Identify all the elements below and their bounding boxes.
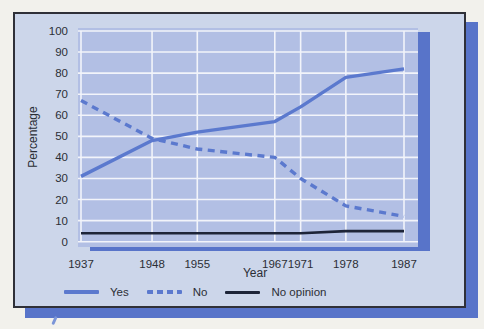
x-tick-label: 1937: [59, 257, 103, 271]
legend-item: Yes: [64, 286, 129, 298]
legend-dashed-line-swatch: [147, 290, 182, 294]
y-tick-label: 80: [24, 66, 68, 80]
legend-solid-line-swatch: [225, 291, 260, 294]
chart-card: Percentage Year 0102030405060708090100 1…: [13, 12, 466, 308]
y-tick-label: 90: [24, 45, 68, 59]
x-tick-label: 1978: [324, 257, 368, 271]
y-tick-label: 50: [24, 129, 68, 143]
legend-label: No: [193, 286, 208, 298]
y-tick-label: 70: [24, 87, 68, 101]
line-chart: [78, 28, 418, 247]
y-tick-label: 100: [24, 24, 68, 38]
x-tick-label: 1955: [175, 257, 219, 271]
y-tick-label: 10: [24, 214, 68, 228]
x-tick-label: 1987: [382, 257, 426, 271]
y-tick-label: 20: [24, 193, 68, 207]
legend-label: No opinion: [271, 286, 326, 298]
plot-area: [78, 28, 418, 247]
y-tick-label: 60: [24, 108, 68, 122]
legend-solid-line-swatch: [64, 290, 99, 294]
scanned-figure-page: Percentage Year 0102030405060708090100 1…: [0, 0, 484, 329]
y-tick-label: 30: [24, 171, 68, 185]
x-tick-label: 1948: [130, 257, 174, 271]
y-tick-label: 40: [24, 150, 68, 164]
legend: YesNoNo opinion: [64, 284, 326, 300]
legend-label: Yes: [110, 286, 129, 298]
y-tick-label: 0: [24, 235, 68, 249]
stray-mark: [51, 316, 57, 325]
series-yes: [81, 69, 404, 176]
series-no-opinion: [81, 231, 404, 233]
x-tick-label: 1971: [279, 257, 323, 271]
legend-item: No: [147, 286, 208, 298]
legend-item: No opinion: [225, 286, 326, 298]
